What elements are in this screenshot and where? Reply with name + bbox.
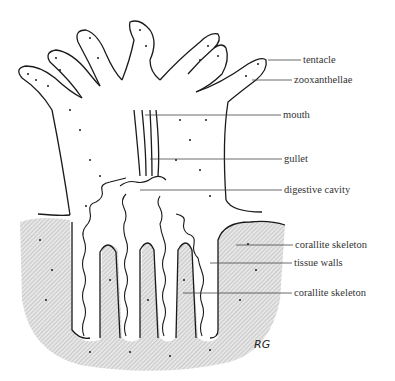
label-tentacle: tentacle: [303, 54, 336, 66]
polyp-body: [19, 21, 266, 215]
label-tissue-walls: tissue walls: [294, 257, 343, 269]
coral-polyp-diagram: tentacle zooxanthellae mouth gullet dige…: [0, 0, 395, 381]
label-gullet: gullet: [284, 153, 308, 165]
artist-signature: RG: [254, 338, 270, 351]
corallite-skeleton-base: [20, 218, 285, 371]
label-mouth: mouth: [283, 109, 310, 121]
label-digestive-cavity: digestive cavity: [284, 184, 350, 196]
label-corallite-skeleton-upper: corallite skeleton: [295, 239, 367, 251]
label-zooxanthellae: zooxanthellae: [294, 74, 352, 86]
label-corallite-skeleton-lower: corallite skeleton: [294, 287, 366, 299]
